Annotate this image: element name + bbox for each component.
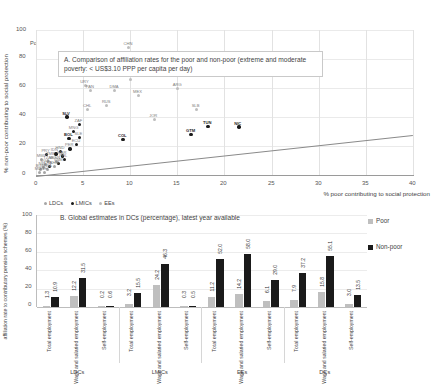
panel-a-x-axis-label: % poor contributing to social protection [323,190,430,197]
bar-value-label: 15.5 [135,278,141,288]
y-tick-40: 40 [19,111,26,117]
scatter-label-slv: SLV [62,111,70,116]
scatter-label-mex: MEX [133,89,142,94]
scatter-point-slb [195,108,198,111]
bar-value-label: 58.0 [245,239,251,249]
bar-non-poor-2 [106,306,114,307]
scatter-label-pan: PAN [86,84,94,89]
bar-poor-7 [235,294,243,307]
x-tick-5: 5 [81,180,84,186]
x-tick-10: 10 [126,180,133,186]
scatter-point-slv [65,115,68,118]
bar-value-label: 3.2 [126,289,132,296]
scatter-point-gtm [189,133,192,136]
scatter-point-mex [137,94,140,97]
bar-poor-2 [98,306,106,307]
scatter-label-bol: BOL [64,132,73,137]
bar-value-label: 10.9 [52,282,58,292]
bar-poor-8 [263,301,271,307]
bar-value-label: 0.6 [107,291,113,298]
group-label-ees: EEs [201,369,284,375]
x-tick-20: 20 [220,180,227,186]
b-y-tick-60: 60 [25,247,32,253]
panel-b-bars: B. Global estimates in DCs (percentage),… [0,205,446,380]
y-tick-100: 100 [16,26,26,32]
bar-non-poor-3 [134,293,142,307]
scatter-point-chl [86,108,89,111]
bar-non-poor-5 [189,306,197,307]
legend-label-poor: Poor [376,217,389,224]
y-tick-80: 80 [19,53,26,59]
b-y-tick-0: 0 [28,301,31,307]
scatter-label-dma: DMA [109,84,118,89]
y-tick-0: 0 [22,170,25,176]
panel-b-plot-area: 1.310.912.231.50.20.63.215.524.246.30.30… [36,215,367,307]
scatter-point-tun [206,125,209,128]
b-y-tick-80: 80 [25,229,32,235]
bar-non-poor-7 [244,254,252,307]
scatter-label-arg: ARG [173,82,182,87]
bar-poor-11 [345,304,353,307]
bar-non-poor-4 [161,264,169,307]
x-axis-line [36,175,414,176]
scatter-label-zaf: ZAF [74,118,82,123]
bar-value-label: 1.3 [44,291,50,298]
scatter-point-tur [129,78,132,81]
scatter-label-tun: TUN [203,120,211,125]
panel-a-y-axis-label: % non-poor contributing to social protec… [2,54,9,173]
scatter-label-pry: PRY [41,148,49,153]
scatter-label-rus: RUS [102,99,111,104]
group-separator [201,307,202,363]
b-gridline-40 [37,270,367,271]
scatter-label-col: COL [118,133,127,138]
gridline-h-20 [36,146,414,147]
bar-value-label: 15.8 [319,277,325,287]
scatter-label-sle: SLE [74,131,82,136]
bar-value-label: 55.1 [327,241,333,251]
b-gridline-60 [37,252,367,253]
x-tick-35: 35 [362,180,369,186]
bar-value-label: 13.5 [355,280,361,290]
scatter-point-bol [67,137,70,140]
bar-value-label: 11.2 [209,282,215,291]
scatter-point-chn [127,46,130,49]
bar-value-label: 0.2 [99,291,105,298]
bar-non-poor-6 [216,259,224,307]
x-tick-25: 25 [268,180,275,186]
group-label-lmics: LMICs [119,369,202,375]
b-y-tick-40: 40 [25,265,32,271]
legend-swatch-poor [368,219,373,224]
bar-value-label: 0.5 [190,291,196,298]
b-y-tick-100: 100 [22,211,32,217]
group-separator [119,307,120,363]
scatter-point-per [68,147,71,150]
scatter-label-nic: NIC [234,121,241,126]
group-separator [284,307,285,363]
panel-a-scatter: Poverty US$3.10 PPP A. Comparison of aff… [0,18,446,200]
scatter-label-mwi: MWI [37,153,45,158]
scatter-label-vnm: VNM [54,157,63,162]
gridline-v-35 [366,30,367,176]
gridline-h-100 [36,30,414,31]
bar-value-label: 6.1 [264,286,270,293]
y-tick-60: 60 [19,82,26,88]
panel-b-legend-nonpoor: Non-poor [368,243,402,250]
scatter-point-col [121,138,124,141]
bar-value-label: 24.2 [154,270,160,280]
bar-poor-1 [70,296,78,307]
bar-non-poor-1 [79,278,87,307]
bar-poor-9 [290,300,298,307]
gridline-h-40 [36,117,414,118]
panel-b-y-axis-label: affiliation rate to contributory pension… [2,223,8,339]
x-tick-15: 15 [173,180,180,186]
b-axis-line [37,307,367,308]
x-tick-0: 0 [34,180,37,186]
gridline-v-40 [413,30,414,176]
scatter-label-chn: CHN [124,41,133,46]
scatter-point-nic [237,125,240,128]
legend-swatch-nonpoor [368,245,373,250]
bar-non-poor-11 [354,295,362,307]
bar-value-label: 37.2 [300,258,306,268]
b-y-tick-20: 20 [25,283,32,289]
bar-non-poor-8 [271,280,279,307]
